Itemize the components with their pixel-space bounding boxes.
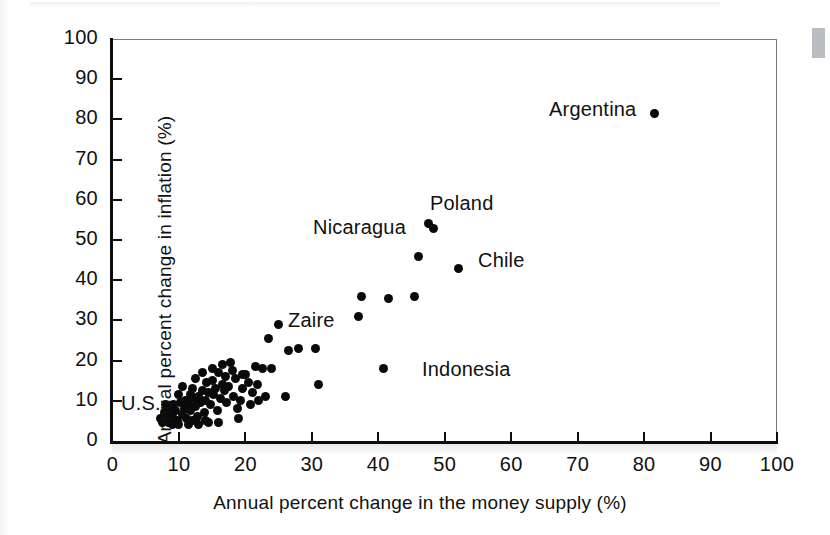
x-tick-label: 80	[619, 453, 669, 476]
y-tick-label: 20	[48, 348, 98, 371]
x-tick-label: 50	[420, 453, 470, 476]
y-tick-label: 90	[48, 66, 98, 89]
scan-edge-left	[0, 0, 10, 535]
x-axis-title: Annual percent change in the money suppl…	[200, 492, 640, 514]
y-tick-label: 40	[48, 267, 98, 290]
scan-band-top	[30, 2, 720, 7]
y-tick-label: 70	[48, 147, 98, 170]
y-tick-label: 0	[48, 428, 98, 451]
y-tick-label: 10	[48, 388, 98, 411]
scatter-plot-figure: 0102030405060708090100 01020304050607080…	[0, 0, 830, 535]
y-tick-label: 50	[48, 227, 98, 250]
x-tick-label: 90	[686, 453, 736, 476]
x-tick-label: 10	[154, 453, 204, 476]
x-tick-label: 40	[353, 453, 403, 476]
x-tick-label: 30	[287, 453, 337, 476]
y-tick-label: 100	[48, 26, 98, 49]
plot-area: Annual percent change in inflation (%)	[112, 39, 777, 441]
y-axis-title: Annual percent change in inflation (%)	[154, 115, 176, 445]
x-tick-label: 70	[553, 453, 603, 476]
x-tick-label: 100	[752, 453, 802, 476]
y-tick-label: 80	[48, 106, 98, 129]
x-tick-label: 60	[486, 453, 536, 476]
y-tick-label: 30	[48, 307, 98, 330]
scan-marker-right	[812, 28, 825, 58]
x-tick-label: 20	[220, 453, 270, 476]
x-tick-label: 0	[88, 453, 138, 476]
y-tick-label: 60	[48, 187, 98, 210]
